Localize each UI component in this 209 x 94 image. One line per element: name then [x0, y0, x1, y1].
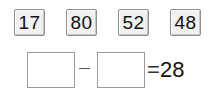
number-card-4[interactable]: 48	[170, 9, 201, 36]
minus-sign	[79, 68, 90, 69]
answer-box-2[interactable]	[97, 52, 145, 88]
card-value: 48	[174, 12, 196, 34]
card-value: 80	[70, 12, 92, 34]
number-card-3[interactable]: 52	[118, 9, 149, 36]
card-value: 52	[122, 12, 144, 34]
result-value: 28	[160, 57, 184, 83]
equals-sign: =	[147, 57, 160, 83]
card-value: 17	[18, 12, 40, 34]
number-card-1[interactable]: 17	[14, 9, 45, 36]
number-card-2[interactable]: 80	[66, 9, 97, 36]
answer-box-1[interactable]	[27, 52, 75, 88]
